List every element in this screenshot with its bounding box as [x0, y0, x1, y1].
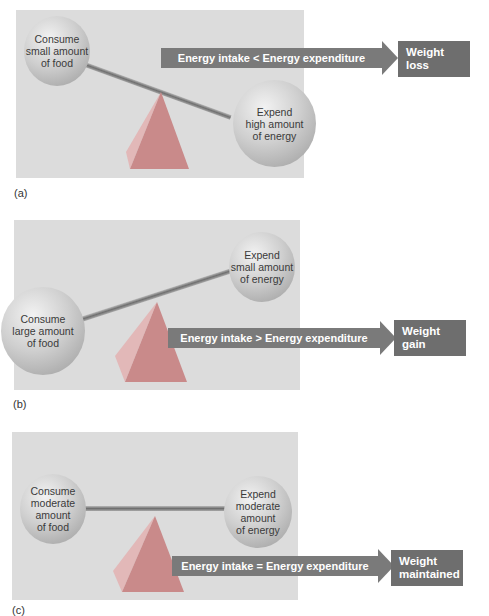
panel-a-result: Weight loss [398, 41, 470, 77]
panel-c-beam [84, 506, 228, 511]
panel-c-right-ball: Expend moderate amount of energy [224, 476, 292, 548]
panel-a-right-ball: Expend high amount of energy [233, 80, 316, 167]
panel-b-result: Weight gain [394, 320, 466, 356]
panel-b-right-ball: Expend small amount of energy [229, 232, 295, 302]
panel-c-label: (c) [12, 604, 25, 616]
panel-b-arrow: Energy intake > Energy expenditure [168, 328, 380, 348]
panel-b-label: (b) [13, 398, 26, 410]
panel-a-label: (a) [14, 187, 27, 199]
panel-a-arrow: Energy intake < Energy expenditure [161, 48, 382, 68]
panel-c-fulcrum [110, 514, 190, 594]
panel-b-left-ball: Consume large amount of food [1, 287, 85, 375]
panel-c-arrow: Energy intake = Energy expenditure [172, 556, 378, 576]
panel-a-left-ball: Consume small amount of food [24, 16, 90, 86]
panel-a-fulcrum [116, 90, 196, 170]
panel-c-result: Weight maintained [391, 550, 463, 586]
panel-c-left-ball: Consume moderate amount of food [20, 474, 86, 544]
